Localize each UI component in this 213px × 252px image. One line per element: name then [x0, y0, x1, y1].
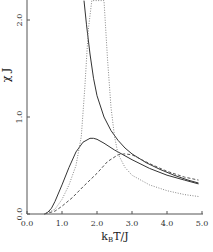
y-axis-label: χ J — [0, 68, 13, 83]
chart-canvas: 0.01.02.03.04.05.0 0.01.02.0 kBT/J χ J — [0, 0, 213, 252]
curve-dashed — [45, 154, 199, 214]
x-tick-label: 1.0 — [56, 219, 69, 228]
curve-dotted — [45, 1, 199, 214]
y-tick-label: 1.0 — [15, 111, 24, 124]
x-tick-label: 2.0 — [91, 219, 104, 228]
x-tick-label: 5.0 — [196, 219, 209, 228]
curve-solid-divergent — [84, 1, 199, 183]
x-axis-label: kBT/J — [101, 230, 128, 244]
y-tick-label: 0.0 — [15, 208, 24, 221]
y-ticks: 0.01.02.0 — [15, 14, 30, 221]
plot-curves — [45, 1, 199, 214]
y-tick-label: 2.0 — [15, 14, 24, 27]
x-tick-label: 3.0 — [126, 219, 139, 228]
x-tick-label: 4.0 — [161, 219, 174, 228]
